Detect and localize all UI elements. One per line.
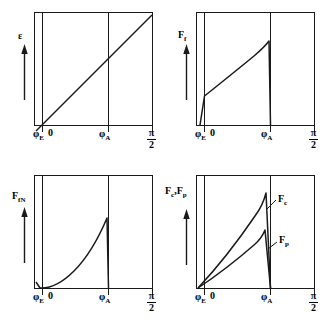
xtick-pi-numerator: π [309,291,318,302]
xtick-zero-text: 0 [48,127,53,138]
y-axis-arrow-head [183,44,189,54]
xtick-phi-e: φE [195,292,206,305]
xtick-phi-a: φA [99,129,110,142]
xtick-pi-denominator: 2 [309,140,318,151]
plot-frame [197,176,315,289]
xtick-phi-e-sub: E [201,297,206,305]
xtick-pi-half: π 2 [309,128,318,150]
panel-friction-force-plot [162,0,324,163]
xtick-phi-e: φE [33,292,44,305]
series-cutting-force [198,193,271,288]
curve-label-fp-sub: p [285,240,289,248]
xtick-pi-half: π 2 [309,291,318,313]
xtick-pi-denominator: 2 [309,303,318,314]
plot-frame [35,176,153,289]
series-normal-force [36,218,109,288]
xtick-pi-numerator: π [309,128,318,139]
xtick-phi-e-sub: E [201,134,206,142]
xtick-zero-text: 0 [48,290,53,301]
y-axis-label-normal-force: FfN [12,191,26,204]
y-axis-label-cutting-passive-force: Fc,Fp [165,186,187,199]
curve-label-cutting-force: Fc [278,194,287,207]
xtick-pi-half: π 2 [147,291,156,313]
series-passive-force [198,230,271,288]
xtick-phi-a-sub: A [105,297,110,305]
xtick-phi-e: φE [195,129,206,142]
xtick-zero-text: 0 [210,290,215,301]
xtick-pi-denominator: 2 [147,303,156,314]
figure-root: ε φE 0 φA π 2 Ff φE [0,0,324,326]
series-epsilon [36,15,152,131]
plot-frame [197,13,315,126]
y-axis-arrow-head [21,44,27,54]
panel-friction-force: Ff φE 0 φA π 2 [162,0,324,163]
series-friction-force [200,41,271,125]
xtick-zero: 0 [210,291,215,301]
xtick-phi-e-sub: E [39,134,44,142]
panel-normal-force-plot [0,163,162,326]
xtick-pi-numerator: π [147,128,156,139]
xtick-zero: 0 [210,128,215,138]
xtick-pi-half: π 2 [147,128,156,150]
xtick-pi-numerator: π [147,291,156,302]
y-axis-label-friction-force: Ff [178,30,186,43]
curve-label-fc-sub: c [284,199,287,207]
y-axis-label-text: ε [18,30,22,41]
panel-epsilon: ε φE 0 φA π 2 [0,0,162,163]
y-axis-arrow-head [21,207,27,217]
y-axis-arrow-head [183,209,189,219]
panel-epsilon-plot [0,0,162,163]
xtick-zero: 0 [48,128,53,138]
plot-frame [35,13,153,126]
xtick-phi-a: φA [261,129,272,142]
leader-line-passive-force [268,242,277,249]
xtick-phi-a: φA [261,292,272,305]
xtick-phi-a-sub: A [105,134,110,142]
xtick-zero: 0 [48,291,53,301]
y-axis-label-sub: fN [18,196,25,204]
y-axis-label-epsilon: ε [18,31,22,41]
xtick-phi-a-sub: A [267,297,272,305]
panel-normal-force: FfN φE 0 φA π 2 [0,163,162,326]
curve-label-passive-force: Fp [279,235,289,248]
xtick-phi-e-sub: E [39,297,44,305]
panel-cutting-passive-force: Fc,Fp Fc Fp φE 0 φA π 2 [162,163,324,326]
xtick-pi-denominator: 2 [147,140,156,151]
y-axis-label-sub: f [184,35,186,43]
xtick-phi-e: φE [33,129,44,142]
xtick-phi-a: φA [99,292,110,305]
leader-line-cutting-force [267,200,276,209]
xtick-phi-a-sub: A [267,134,272,142]
y-axis-label-fp-sub: p [183,191,187,199]
xtick-zero-text: 0 [210,127,215,138]
